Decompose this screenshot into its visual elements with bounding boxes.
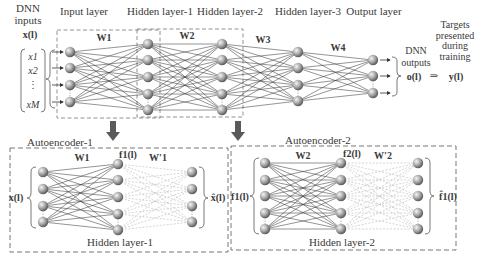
- weight-w4-label: W4: [331, 42, 346, 54]
- neuron-node: [143, 105, 153, 115]
- dnn-outputs-label: DNN outputs: [401, 45, 430, 69]
- ae2-input-vector: f1(l): [231, 191, 249, 203]
- input-vector-bracket: [21, 49, 25, 112]
- implies-arrow: ⇒: [430, 70, 438, 82]
- ae2-hidden-label: Hidden layer-2: [309, 236, 375, 248]
- neuron-node: [217, 72, 227, 82]
- ae2-encoder-weight: W2: [296, 150, 311, 162]
- neuron-node: [217, 55, 227, 65]
- ae2-hidden-vector: f2(l): [343, 148, 361, 160]
- layer-pair-box: [137, 29, 243, 117]
- neuron-node: [143, 55, 153, 65]
- down-arrow-icon: [106, 121, 120, 141]
- ae1-output-vector: x̂(l): [211, 192, 225, 204]
- neuron-node: [293, 96, 303, 106]
- neuron-node: [260, 191, 270, 201]
- neuron-node: [260, 224, 270, 234]
- neuron-node: [336, 208, 346, 218]
- neuron-node: [65, 63, 75, 73]
- input-element-x1: x1: [28, 51, 37, 63]
- neuron-node: [143, 39, 153, 49]
- neuron-node: [38, 184, 48, 194]
- neuron-node: [260, 175, 270, 185]
- neuron-node: [368, 55, 378, 65]
- dnn-inputs-label: DNN inputs: [15, 2, 42, 26]
- neuron-node: [65, 80, 75, 90]
- neuron-node: [187, 184, 197, 194]
- neuron-node: [293, 63, 303, 73]
- input-curly-brace: [46, 50, 55, 108]
- neuron-node: [113, 175, 123, 185]
- autoencoder1-title: Autoencoder-1: [27, 136, 93, 148]
- layer-title-output: Output layer: [346, 5, 401, 17]
- ae1-output-brace: [199, 167, 208, 228]
- ae2-output-vector: f̂1(l): [439, 191, 457, 203]
- input-vector-label: x(l): [23, 29, 37, 41]
- input-vector-bracket: [41, 49, 45, 112]
- neuron-node: [113, 209, 123, 219]
- neuron-node: [113, 192, 123, 202]
- input-element-xm: xM: [27, 99, 40, 111]
- output-curly-brace: [392, 57, 401, 96]
- neuron-node: [187, 217, 197, 227]
- neuron-node: [217, 89, 227, 99]
- neuron-node: [187, 167, 197, 177]
- ae1-encoder-weight: W1: [75, 152, 90, 164]
- neuron-node: [65, 97, 75, 107]
- neuron-node: [217, 39, 227, 49]
- weight-w3-label: W3: [256, 34, 271, 46]
- layer-title-hidden1: Hidden layer-1: [127, 5, 193, 17]
- dnn-autoencoder-diagram: [0, 0, 477, 259]
- neuron-node: [413, 175, 423, 185]
- neuron-node: [260, 158, 270, 168]
- neuron-node: [336, 224, 346, 234]
- ae1-input-vector: x(l): [9, 192, 23, 204]
- neuron-node: [413, 191, 423, 201]
- down-arrow-icon: [231, 121, 245, 141]
- autoencoder2-title: Autoencoder-2: [285, 134, 351, 146]
- neuron-node: [293, 47, 303, 57]
- neuron-node: [413, 224, 423, 234]
- neuron-node: [113, 225, 123, 235]
- neuron-node: [143, 89, 153, 99]
- neuron-node: [187, 201, 197, 211]
- neuron-node: [413, 158, 423, 168]
- neuron-node: [260, 208, 270, 218]
- neuron-node: [368, 71, 378, 81]
- neuron-node: [65, 47, 75, 57]
- layer-title-hidden2: Hidden layer-2: [197, 5, 263, 17]
- targets-label: Targets presented during training: [436, 20, 474, 62]
- weight-w2-label: W2: [180, 30, 195, 42]
- layer-title-hidden3: Hidden layer-3: [275, 5, 341, 17]
- layer-title-input: Input layer: [60, 5, 108, 17]
- neuron-node: [413, 208, 423, 218]
- input-element-x2: x2: [28, 65, 37, 77]
- input-element-ellipsis: ⋮: [28, 79, 38, 91]
- ae2-output-brace: [425, 158, 434, 234]
- ae2-input-brace: [250, 158, 259, 234]
- neuron-node: [368, 88, 378, 98]
- target-vector-label: y(l): [449, 71, 463, 83]
- neuron-node: [336, 191, 346, 201]
- ae2-decoder-weight: W'2: [374, 150, 392, 162]
- ae1-decoder-weight: W'1: [149, 152, 167, 164]
- ae1-input-brace: [27, 167, 36, 228]
- neuron-node: [143, 72, 153, 82]
- neuron-node: [38, 217, 48, 227]
- neuron-node: [293, 80, 303, 90]
- weight-w1-label: W1: [97, 32, 112, 44]
- neuron-node: [38, 201, 48, 211]
- ae1-hidden-vector: f1(l): [119, 149, 137, 161]
- ae1-hidden-label: Hidden layer-1: [87, 236, 153, 248]
- neuron-node: [336, 175, 346, 185]
- neuron-node: [38, 167, 48, 177]
- neuron-node: [217, 105, 227, 115]
- output-vector-label: o(l): [407, 71, 421, 83]
